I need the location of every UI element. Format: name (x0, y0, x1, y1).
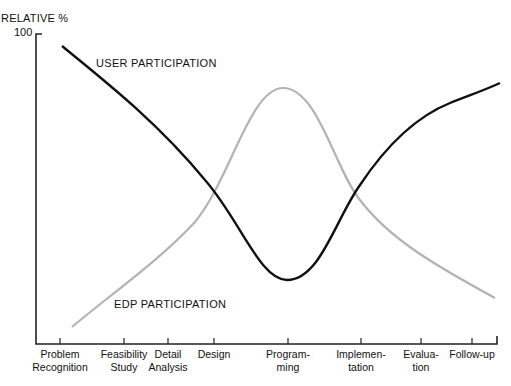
x-tick-label-evaluation: Evalua- tion (403, 348, 439, 374)
edp-participation-label: EDP PARTICIPATION (114, 298, 226, 310)
x-tick-label-problem-recognition: Problem Recognition (32, 348, 87, 374)
x-tick-label-feasibility-study: Feasibility Study (101, 348, 148, 374)
x-tick-label-design: Design (198, 348, 231, 361)
edp-participation-line (72, 88, 495, 327)
x-tick-label-programming: Program- ming (266, 348, 310, 374)
line-chart (0, 0, 511, 386)
x-ticks (60, 338, 472, 344)
x-tick-label-implementation: Implemen- tation (336, 348, 386, 374)
user-participation-line (62, 46, 500, 280)
x-tick-label-detail-analysis: Detail Analysis (148, 348, 187, 374)
user-participation-label: USER PARTICIPATION (96, 57, 217, 69)
x-tick-label-follow-up: Follow-up (449, 348, 495, 361)
